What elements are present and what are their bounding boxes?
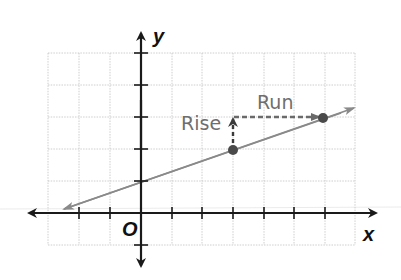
rise-label: Rise bbox=[181, 112, 221, 134]
run-label: Run bbox=[257, 91, 293, 113]
point-3-2 bbox=[228, 145, 238, 155]
scan-artifact-line bbox=[0, 207, 401, 209]
x-axis-label: x bbox=[362, 223, 375, 245]
point-6-3 bbox=[318, 113, 328, 123]
y-axis-label: y bbox=[152, 25, 165, 47]
coordinate-plane-diagram: Rise Run y x O bbox=[0, 0, 401, 280]
origin-label: O bbox=[122, 218, 138, 240]
